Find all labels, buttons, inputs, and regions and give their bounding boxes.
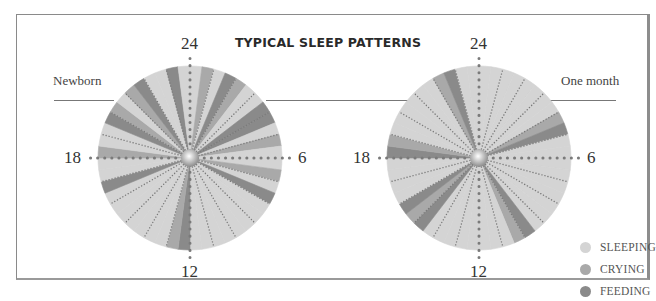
feeding-swatch-icon bbox=[580, 286, 591, 297]
one-month-sleep-pie-chart bbox=[359, 38, 599, 278]
legend-label: FEEDING bbox=[600, 285, 651, 297]
legend-item-crying: CRYING bbox=[580, 258, 656, 280]
legend: SLEEPING CRYING FEEDING bbox=[580, 236, 656, 301]
legend-item-sleeping: SLEEPING bbox=[580, 236, 656, 258]
pie-center-hub-icon bbox=[470, 149, 488, 167]
legend-item-feeding: FEEDING bbox=[580, 280, 656, 301]
legend-label: CRYING bbox=[600, 263, 645, 275]
sleeping-swatch-icon bbox=[580, 242, 591, 253]
pie-center-hub-icon bbox=[181, 149, 199, 167]
crying-swatch-icon bbox=[580, 264, 591, 275]
newborn-sleep-pie-chart bbox=[70, 38, 310, 278]
legend-label: SLEEPING bbox=[600, 241, 656, 253]
